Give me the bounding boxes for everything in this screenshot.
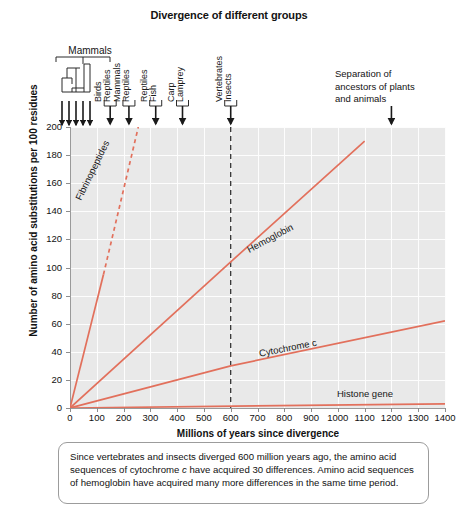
- divergence-label-reptiles: Reptiles: [121, 69, 131, 102]
- chart-title: Divergence of different groups: [0, 9, 458, 21]
- x-axis-tick-mark: [231, 408, 232, 412]
- mammals-annotation-label: Mammals: [50, 45, 130, 56]
- gridline-horizontal: [70, 352, 445, 353]
- x-axis-tick-mark: [284, 408, 285, 412]
- gridline-horizontal: [70, 155, 445, 156]
- plot-area: [70, 127, 445, 408]
- y-axis-tick-mark: [66, 211, 70, 212]
- x-axis-title: Millions of years since divergence: [70, 428, 446, 439]
- y-axis-tick-mark: [66, 268, 70, 269]
- y-axis-tick-mark: [66, 183, 70, 184]
- x-axis-tick-mark: [97, 408, 98, 412]
- gridline-horizontal: [70, 183, 445, 184]
- separation-line-1: Separation of: [335, 68, 445, 81]
- gridline-horizontal: [70, 127, 445, 128]
- series-label-histone-gene: Histone gene: [337, 388, 393, 399]
- tree-branch-7: [84, 64, 90, 92]
- x-axis-tick-mark: [391, 408, 392, 412]
- y-axis-tick-mark: [66, 127, 70, 128]
- x-axis-tick-mark: [311, 408, 312, 412]
- y-axis-tick-label: 160: [36, 177, 62, 188]
- y-axis-tick-mark: [66, 155, 70, 156]
- y-axis-tick-label: 40: [36, 346, 62, 357]
- x-axis-tick-mark: [258, 408, 259, 412]
- mammals-bracket: [56, 57, 110, 62]
- separation-line-2: ancestors of plants: [335, 81, 445, 94]
- gridline-horizontal: [70, 324, 445, 325]
- y-axis-line: [70, 127, 71, 409]
- gridline-vertical: [445, 127, 446, 408]
- separation-annotation: Separation of ancestors of plants and an…: [335, 68, 445, 106]
- tree-branch-2: [67, 68, 80, 72]
- caption-box: Since vertebrates and insects diverged 6…: [58, 442, 429, 504]
- x-axis-tick-mark: [70, 408, 71, 412]
- divergence-label-insects: Insects: [223, 73, 233, 102]
- x-axis-tick-mark: [150, 408, 151, 412]
- tree-branch-3: [72, 88, 84, 92]
- gridline-horizontal: [70, 211, 445, 212]
- gridline-horizontal: [70, 296, 445, 297]
- tree-branch-1: [62, 78, 72, 84]
- x-axis-tick-mark: [124, 408, 125, 412]
- y-axis-tick-label: 100: [36, 262, 62, 273]
- y-axis-tick-label: 180: [36, 149, 62, 160]
- y-axis-tick-label: 60: [36, 318, 62, 329]
- figure-root: Divergence of different groups Mammals S…: [0, 0, 458, 513]
- y-axis-tick-label: 200: [36, 121, 62, 132]
- y-axis-tick-label: 80: [36, 290, 62, 301]
- y-axis-tick-label: 20: [36, 374, 62, 385]
- y-axis-tick-mark: [66, 352, 70, 353]
- y-axis-tick-mark: [66, 239, 70, 240]
- x-axis-tick-mark: [177, 408, 178, 412]
- y-axis-tick-label: 120: [36, 233, 62, 244]
- x-axis-tick-label: 1400: [425, 412, 458, 423]
- x-axis-tick-mark: [365, 408, 366, 412]
- divergence-label-reptiles: Reptiles: [102, 69, 112, 102]
- y-axis-title: Number of amino acid substitutions per 1…: [28, 71, 39, 351]
- gridline-horizontal: [70, 380, 445, 381]
- x-axis-tick-mark: [338, 408, 339, 412]
- y-axis-tick-mark: [66, 324, 70, 325]
- y-axis-tick-mark: [66, 296, 70, 297]
- gridline-horizontal: [70, 268, 445, 269]
- x-axis-tick-mark: [445, 408, 446, 412]
- y-axis-tick-mark: [66, 380, 70, 381]
- divergence-label-carp: Carp: [166, 82, 176, 102]
- divergence-label-fish: Fish: [148, 85, 158, 102]
- divergence-label-lamprey: Lamprey: [175, 67, 185, 102]
- x-axis-tick-mark: [204, 408, 205, 412]
- y-axis-tick-label: 140: [36, 205, 62, 216]
- x-axis-tick-mark: [418, 408, 419, 412]
- separation-line-3: and animals: [335, 93, 445, 106]
